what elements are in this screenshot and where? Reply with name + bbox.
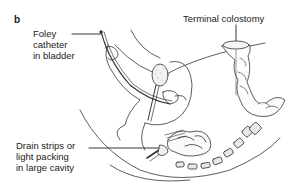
anatomical-illustration	[0, 0, 292, 195]
catheter-tip	[100, 31, 102, 33]
urethra-stalk	[148, 85, 156, 120]
leader-lines	[72, 25, 236, 148]
small-bowel-loops	[167, 131, 211, 156]
colostomy-bowel	[222, 43, 285, 117]
seminal-vesicle	[163, 91, 178, 104]
perineum-outline	[106, 45, 140, 140]
stoma	[223, 41, 249, 49]
drain-end	[158, 145, 168, 156]
bladder	[152, 64, 168, 86]
anterior-wall-inner	[131, 30, 160, 58]
